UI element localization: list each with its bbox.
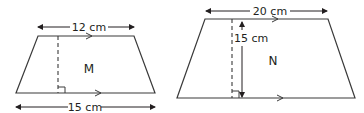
right-angle-icon <box>232 91 239 98</box>
shape-label-m: M <box>84 62 94 76</box>
top-base-label-m: 12 cm <box>72 21 106 34</box>
trapezoid-diagram: 12 cm 15 cm M 15 cm 20 cm N <box>0 0 364 113</box>
top-base-label-n: 20 cm <box>253 5 287 18</box>
bottom-base-label-m: 15 cm <box>68 101 102 113</box>
trapezoid-m: 12 cm 15 cm M <box>16 21 155 113</box>
right-angle-icon <box>58 87 65 93</box>
height-label-n: 15 cm <box>234 32 268 45</box>
trapezoid-n-outline <box>177 19 355 98</box>
shape-label-n: N <box>269 54 278 68</box>
trapezoid-n: 15 cm 20 cm N <box>177 5 355 101</box>
